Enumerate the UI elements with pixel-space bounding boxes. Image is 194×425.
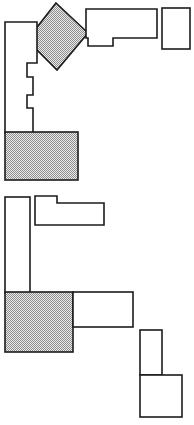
upper-cluster	[5, 3, 190, 180]
left-vertical-bar	[5, 197, 30, 293]
bottom-right-wide-box	[140, 375, 182, 417]
floor-plan-canvas	[0, 0, 194, 425]
bottom-right-narrow-box	[140, 330, 162, 375]
floor-plan-svg	[0, 0, 194, 425]
shape-layer	[5, 3, 190, 417]
lower-hatched-square	[5, 292, 73, 352]
top-notched-rectangle	[86, 9, 157, 46]
top-right-box	[162, 8, 190, 49]
mid-right-rectangle	[73, 292, 133, 327]
left-stepped-outline	[5, 22, 37, 133]
upper-hatched-rectangle	[5, 132, 78, 180]
upper-L-shape	[35, 196, 104, 225]
lower-cluster	[5, 196, 182, 417]
